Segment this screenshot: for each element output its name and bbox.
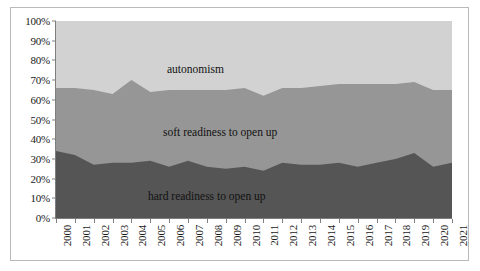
y-tick-label: 30% [30, 153, 50, 165]
y-tick-label: 50% [30, 114, 50, 126]
x-tick-mark [263, 219, 264, 223]
x-tick-mark [113, 219, 114, 223]
x-tick-mark [301, 219, 302, 223]
x-tick-label: 2015 [344, 225, 356, 246]
x-tick-mark [75, 219, 76, 223]
x-tick-label: 2004 [136, 225, 148, 246]
x-tick-label: 2021 [457, 225, 469, 246]
series-areas [56, 21, 452, 218]
y-tick-label: 40% [30, 133, 50, 145]
x-tick-label: 2000 [61, 225, 73, 246]
x-tick-mark [377, 219, 378, 223]
x-tick-mark [433, 219, 434, 223]
x-tick-mark [94, 219, 95, 223]
x-tick-mark [320, 219, 321, 223]
y-tick-label: 70% [30, 74, 50, 86]
x-tick-mark [339, 219, 340, 223]
y-tick-label: 100% [25, 15, 50, 27]
x-tick-mark [207, 219, 208, 223]
y-tick-label: 10% [30, 192, 50, 204]
x-tick-label: 2010 [250, 225, 262, 246]
y-axis: 0%10%20%30%40%50%60%70%80%90%100% [16, 21, 56, 218]
x-tick-mark [414, 219, 415, 223]
x-tick-label: 2020 [438, 225, 450, 246]
x-tick-label: 2016 [363, 225, 375, 246]
x-tick-mark [226, 219, 227, 223]
x-tick-label: 2013 [306, 225, 318, 246]
x-tick-label: 2007 [193, 225, 205, 246]
y-tick-label: 0% [36, 212, 50, 224]
y-tick-label: 20% [30, 173, 50, 185]
x-tick-mark [358, 219, 359, 223]
x-tick-label: 2003 [118, 225, 130, 246]
y-tick-label: 80% [30, 54, 50, 66]
plot-svg [56, 21, 452, 218]
x-tick-mark [452, 219, 453, 223]
x-tick-label: 2018 [400, 225, 412, 246]
x-tick-mark [245, 219, 246, 223]
x-axis: 2000200120022003200420052006200720082009… [56, 219, 452, 267]
x-tick-mark [56, 219, 57, 223]
x-tick-label: 2002 [99, 225, 111, 246]
stacked-area-chart: 0%10%20%30%40%50%60%70%80%90%100% 200020… [0, 0, 480, 271]
x-tick-label: 2012 [287, 225, 299, 246]
x-tick-label: 2005 [155, 225, 167, 246]
x-tick-label: 2006 [174, 225, 186, 246]
x-tick-mark [169, 219, 170, 223]
x-tick-mark [131, 219, 132, 223]
x-tick-label: 2014 [325, 225, 337, 246]
x-tick-label: 2017 [382, 225, 394, 246]
y-tick-label: 90% [30, 35, 50, 47]
x-tick-label: 2019 [419, 225, 431, 246]
x-tick-label: 2009 [231, 225, 243, 246]
x-tick-mark [150, 219, 151, 223]
x-tick-label: 2008 [212, 225, 224, 246]
y-tick-label: 60% [30, 94, 50, 106]
plot-area [56, 21, 452, 218]
x-tick-mark [282, 219, 283, 223]
x-tick-label: 2001 [80, 225, 92, 246]
x-tick-label: 2011 [268, 225, 280, 246]
x-tick-mark [395, 219, 396, 223]
x-tick-mark [188, 219, 189, 223]
